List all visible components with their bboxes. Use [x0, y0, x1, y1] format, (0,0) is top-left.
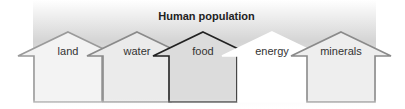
arrow-label-water: water — [124, 45, 151, 57]
arrow-label-minerals: minerals — [320, 45, 362, 57]
arrow-label-energy: energy — [255, 45, 289, 57]
arrow-label-food: food — [192, 45, 213, 57]
arrow-label-land: land — [58, 45, 79, 57]
